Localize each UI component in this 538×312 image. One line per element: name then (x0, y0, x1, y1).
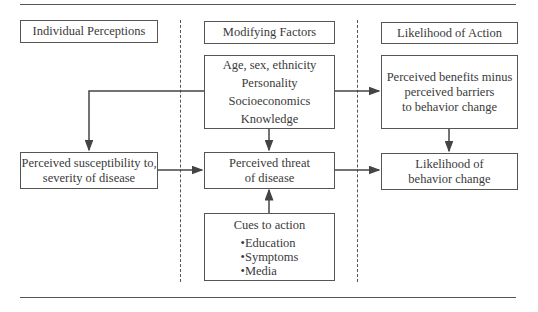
box-line: of disease (245, 171, 295, 186)
factor-line: Age, sex, ethnicity (223, 56, 317, 74)
header-individual-perceptions: Individual Perceptions (20, 20, 158, 43)
box-line: behavior change (408, 172, 490, 187)
box-line: Likelihood of (415, 157, 483, 172)
header-likelihood-of-action: Likelihood of Action (381, 22, 518, 44)
box-line: to behavior change (402, 100, 497, 115)
factor-line: Personality (241, 74, 297, 92)
header-label: Individual Perceptions (33, 24, 146, 39)
perceived-benefits-box: Perceived benefits minus perceived barri… (381, 55, 518, 129)
box-line: perceived barriers (405, 85, 495, 100)
likelihood-behavior-change-box: Likelihood of behavior change (381, 153, 518, 190)
box-line: severity of disease (43, 171, 135, 186)
cue-item: Media (241, 264, 299, 278)
header-label: Likelihood of Action (397, 26, 502, 41)
box-line: Perceived threat (229, 156, 310, 171)
perceived-threat-box: Perceived threat of disease (204, 152, 335, 189)
factor-line: Knowledge (241, 110, 299, 128)
box-line: Perceived susceptibility to, (21, 156, 156, 171)
factor-line: Socioeconomics (229, 92, 311, 110)
cue-item: Education (241, 236, 299, 250)
cue-item: Symptoms (241, 250, 299, 264)
modifying-factors-box: Age, sex, ethnicity Personality Socioeco… (204, 55, 335, 129)
header-label: Modifying Factors (223, 25, 316, 40)
cues-list: Education Symptoms Media (241, 236, 299, 278)
box-line: Perceived benefits minus (387, 70, 513, 85)
cues-to-action-box: Cues to action Education Symptoms Media (204, 213, 335, 281)
cues-title: Cues to action (234, 218, 306, 233)
header-modifying-factors: Modifying Factors (204, 21, 335, 44)
perceived-susceptibility-box: Perceived susceptibility to, severity of… (20, 152, 158, 189)
